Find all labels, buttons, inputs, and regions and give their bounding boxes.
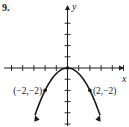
data-point (43, 89, 47, 93)
y-axis-arrow (65, 5, 70, 10)
problem-number: 9. (2, 2, 10, 13)
data-point (88, 89, 92, 93)
point-label: (2,−2) (93, 86, 117, 97)
y-axis-label: y (71, 1, 77, 12)
data-point (66, 66, 70, 70)
curve-arrow (34, 115, 39, 122)
points: (−2,−2)(2,−2) (13, 66, 116, 121)
point-label: (−2,−2) (13, 86, 42, 97)
axes (4, 5, 124, 126)
x-axis-label: x (121, 73, 127, 84)
parabola-graph: 9. (−2,−2)(2,−2) x y (0, 0, 129, 127)
curve-arrow (95, 115, 100, 122)
